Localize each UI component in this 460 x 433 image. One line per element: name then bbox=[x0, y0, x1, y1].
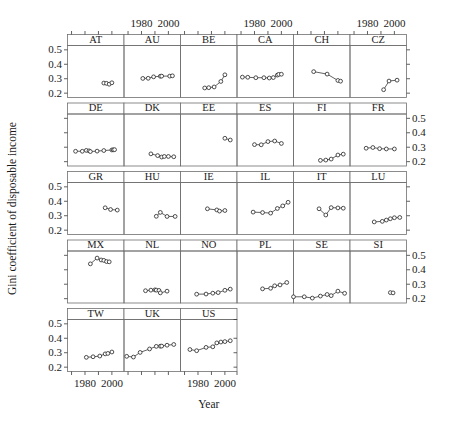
strip-label-at: AT bbox=[89, 34, 102, 45]
strip-label-be: BE bbox=[202, 34, 215, 45]
panel-se: SE bbox=[292, 239, 350, 303]
y-tick-label: 0.5 bbox=[48, 180, 62, 192]
strip-label-mx: MX bbox=[87, 239, 104, 250]
data-point bbox=[302, 295, 306, 299]
data-point bbox=[109, 208, 113, 212]
x-tick-label-bottom: 2000 bbox=[214, 377, 237, 389]
data-point bbox=[207, 86, 211, 90]
data-point bbox=[74, 149, 78, 153]
trellis-chart-figure: ATAUBECACHCZDEDKEEESFIFRGRHUIEILITLUMXNL… bbox=[0, 0, 460, 433]
data-point bbox=[84, 355, 88, 359]
data-point bbox=[228, 138, 232, 142]
data-point bbox=[317, 207, 321, 211]
data-point bbox=[158, 211, 162, 215]
y-axis-title: Gini coefficient of disposable income bbox=[6, 122, 19, 295]
data-point bbox=[165, 343, 169, 347]
data-point bbox=[388, 217, 392, 221]
panel-hu: HU bbox=[124, 171, 181, 235]
x-tick-label-top: 2000 bbox=[383, 17, 406, 29]
data-point bbox=[384, 147, 388, 151]
data-point bbox=[80, 149, 84, 153]
panel-frame bbox=[294, 46, 351, 98]
panel-ch: CH bbox=[294, 34, 351, 98]
y-tick-label: 0.4 bbox=[48, 195, 62, 207]
data-point bbox=[162, 155, 166, 159]
data-point bbox=[251, 210, 255, 214]
panel-frame bbox=[124, 46, 181, 98]
data-point bbox=[273, 284, 277, 288]
data-point bbox=[211, 345, 215, 349]
data-point bbox=[95, 149, 99, 153]
y-tick-label: 0.5 bbox=[48, 317, 62, 329]
data-point bbox=[211, 291, 215, 295]
data-point bbox=[160, 74, 164, 78]
data-point bbox=[281, 204, 285, 208]
data-point bbox=[95, 256, 99, 260]
panel-frame bbox=[124, 251, 181, 303]
data-point bbox=[223, 340, 227, 344]
data-point bbox=[261, 211, 265, 215]
panel-tw: TW bbox=[68, 308, 125, 372]
data-point bbox=[392, 216, 396, 220]
data-point bbox=[158, 291, 162, 295]
data-point bbox=[88, 262, 92, 266]
y-tick-label: 0.2 bbox=[48, 87, 62, 99]
data-point bbox=[223, 288, 227, 292]
data-point bbox=[223, 73, 227, 77]
panel-si: SI bbox=[350, 239, 407, 303]
panel-ee: EE bbox=[181, 102, 238, 166]
data-point bbox=[195, 349, 199, 353]
strip-label-hu: HU bbox=[145, 171, 161, 182]
panel-frame bbox=[237, 46, 294, 98]
data-point bbox=[91, 355, 95, 359]
data-point bbox=[110, 81, 114, 85]
strip-label-pl: PL bbox=[259, 239, 271, 250]
y-tick-label: 0.3 bbox=[412, 141, 426, 153]
y-tick-label: 0.5 bbox=[412, 249, 426, 261]
strip-label-es: ES bbox=[259, 102, 271, 113]
panel-frame bbox=[68, 114, 125, 166]
strip-label-ee: EE bbox=[202, 102, 215, 113]
strip-label-ch: CH bbox=[314, 34, 329, 45]
y-tick-label: 0.3 bbox=[48, 209, 62, 221]
strip-label-dk: DK bbox=[145, 102, 161, 113]
data-point bbox=[156, 154, 160, 158]
data-point bbox=[292, 295, 296, 299]
panel-frame bbox=[237, 251, 294, 303]
strip-label-si: SI bbox=[374, 239, 384, 250]
x-axis-title: Year bbox=[198, 398, 219, 410]
data-point bbox=[102, 149, 106, 153]
data-point bbox=[171, 74, 175, 78]
data-point bbox=[273, 139, 277, 143]
data-point bbox=[144, 289, 148, 293]
strip-label-tw: TW bbox=[88, 308, 104, 319]
panel-it: IT bbox=[294, 171, 351, 235]
panel-mx: MX bbox=[68, 239, 125, 303]
data-point bbox=[88, 150, 92, 154]
data-point bbox=[154, 214, 158, 218]
y-tick-label: 0.5 bbox=[412, 112, 426, 124]
strip-label-ie: IE bbox=[204, 171, 214, 182]
data-point bbox=[215, 341, 219, 345]
data-point bbox=[149, 152, 153, 156]
strip-label-au: AU bbox=[145, 34, 161, 45]
data-point bbox=[285, 281, 289, 285]
data-point bbox=[261, 287, 265, 291]
data-point bbox=[275, 207, 279, 211]
data-point bbox=[329, 157, 333, 161]
data-point bbox=[172, 343, 176, 347]
y-tick-label: 0.3 bbox=[48, 72, 62, 84]
data-point bbox=[218, 209, 222, 213]
strip-label-cz: CZ bbox=[372, 34, 385, 45]
data-point bbox=[324, 213, 328, 217]
strip-label-no: NO bbox=[201, 239, 217, 250]
panel-frame bbox=[181, 320, 238, 372]
panel-no: NO bbox=[181, 239, 238, 303]
strip-label-uk: UK bbox=[145, 308, 161, 319]
data-point bbox=[165, 289, 169, 293]
data-point bbox=[269, 211, 273, 215]
data-point bbox=[371, 146, 375, 150]
x-tick-label-bottom: 1980 bbox=[74, 377, 97, 389]
data-point bbox=[138, 351, 142, 355]
data-point bbox=[398, 216, 402, 220]
